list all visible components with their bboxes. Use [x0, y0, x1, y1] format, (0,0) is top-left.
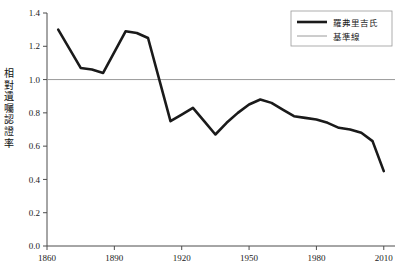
legend-label-baseline: 基準線 — [333, 32, 360, 42]
chart-plot: 0.00.20.40.60.81.01.21.4 186018901920195… — [0, 0, 408, 275]
y-axis-title-char: 囑 — [1, 103, 16, 115]
y-axis-title-char: 證 — [1, 126, 16, 138]
data-series-line — [58, 30, 384, 171]
y-axis-tick-label: 1.2 — [29, 41, 40, 51]
x-axis-tick-label: 2010 — [375, 253, 394, 263]
y-axis-title-char: 遺 — [1, 91, 16, 103]
y-axis-tick-label: 0.6 — [29, 141, 41, 151]
y-axis-title-char: 相 — [1, 68, 16, 80]
x-axis-tick-label: 1890 — [105, 253, 124, 263]
x-axis-tick-marks — [47, 246, 384, 250]
y-axis-tick-label: 1.0 — [29, 75, 41, 85]
y-axis-tick-label: 0.4 — [29, 175, 41, 185]
y-axis-title-char: 率 — [1, 138, 16, 150]
legend-label-series: 羅弗里吉氏 — [333, 18, 378, 28]
x-axis-tick-label: 1980 — [307, 253, 326, 263]
y-axis-title: 相 對 遺 囑 認 證 率 — [1, 68, 16, 149]
x-axis-tick-label: 1950 — [240, 253, 259, 263]
chart-container: 相 對 遺 囑 認 證 率 0.00.20.40.60.81.01.21.4 1… — [0, 0, 408, 275]
x-axis-tick-label: 1860 — [38, 253, 57, 263]
y-axis-title-char: 對 — [1, 80, 16, 92]
y-axis-tick-marks — [43, 13, 47, 246]
y-axis-tick-labels: 0.00.20.40.60.81.01.21.4 — [29, 8, 41, 251]
x-axis-tick-label: 1920 — [173, 253, 192, 263]
y-axis-tick-label: 0.2 — [29, 208, 40, 218]
y-axis-tick-label: 0.0 — [29, 241, 41, 251]
y-axis-tick-label: 1.4 — [29, 8, 41, 18]
legend: 羅弗里吉氏 基準線 — [291, 11, 392, 46]
x-axis-tick-labels: 186018901920195019802010 — [38, 253, 393, 263]
y-axis-tick-label: 0.8 — [29, 108, 41, 118]
y-axis-title-char: 認 — [1, 114, 16, 126]
